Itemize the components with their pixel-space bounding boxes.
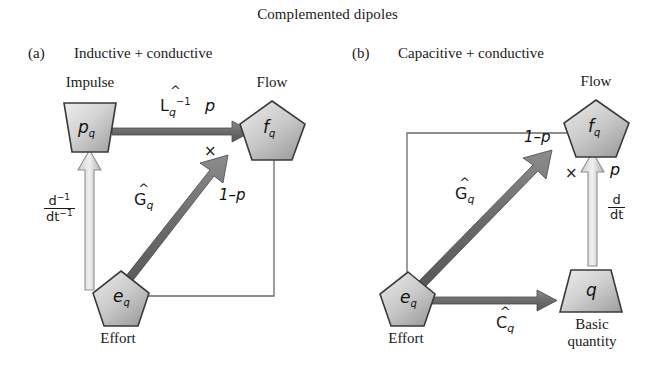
panel-a-tag: (a) [28, 45, 45, 62]
edge-a-weight-one-minus-p: 1–p [219, 186, 246, 204]
caption-a-effort: Effort [72, 330, 164, 347]
edge-a-operator-inductance: ^ Lq−1 [160, 88, 191, 120]
edge-a-eq-to-fq [118, 155, 228, 292]
edge-b-operator-capacitance: ^ Cq [496, 309, 514, 336]
caption-a-flow: Flow [230, 74, 314, 91]
node-a-flow-symbol: fq [263, 117, 275, 139]
caption-a-impulse: Impulse [42, 74, 138, 91]
caption-b-basic-quantity: Basic quantity [541, 316, 643, 350]
edge-a-operator-conductance: ^ Gq [134, 186, 153, 213]
caption-b-basic-quantity-line1: Basic [575, 316, 608, 332]
multiplier-b-icon: × [565, 164, 578, 182]
figure-complemented-dipoles: Complemented dipoles [0, 0, 655, 384]
edge-b-operator-derivative: d dt [608, 193, 625, 221]
node-a-effort-symbol: eq [113, 286, 130, 308]
edge-a-pq-to-fq [112, 121, 252, 142]
caption-b-flow: Flow [554, 73, 638, 90]
multiplier-a-icon: × [204, 142, 217, 160]
panel-b-heading: Capacitive + conductive [398, 45, 544, 62]
edge-b-q-to-fq [581, 152, 604, 266]
panel-a-heading: Inductive + conductive [74, 45, 212, 62]
edge-a-eq-to-pq [78, 150, 101, 290]
edge-b-weight-one-minus-p: 1–p [524, 128, 551, 146]
edge-a-weight-p: p [205, 96, 215, 115]
node-a-impulse-symbol: pq [78, 117, 95, 139]
caption-b-effort: Effort [360, 330, 452, 347]
edge-b-weight-p: p [610, 160, 620, 179]
edge-a-operator-integrator: d−1 dt−1 [44, 193, 75, 224]
edge-b-operator-conductance: ^ Gq [455, 180, 474, 207]
panel-b-tag: (b) [352, 45, 370, 62]
node-b-basic-quantity-symbol: q [586, 280, 597, 300]
caption-b-basic-quantity-line2: quantity [567, 333, 616, 349]
node-b-flow-symbol: fq [588, 116, 600, 138]
edge-b-eq-to-fq [418, 150, 552, 288]
edge-b-eq-to-q [432, 290, 557, 311]
node-b-effort-symbol: eq [400, 287, 417, 309]
